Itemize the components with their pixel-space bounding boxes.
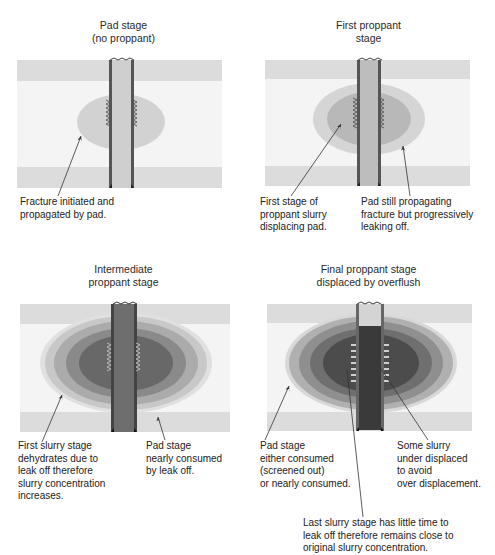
label-fracture-initiated: Fracture initiated and propagated by pad… bbox=[20, 196, 114, 221]
panel-final-stage: Final proppant stage displaced by overfl… bbox=[245, 250, 492, 555]
label-first-slurry-dehydrates: First slurry stage dehydrates due to lea… bbox=[18, 440, 105, 503]
label-last-slurry-stage: Last slurry stage has little time to lea… bbox=[303, 517, 453, 555]
final-stage-diagram bbox=[245, 250, 495, 555]
label-first-stage-slurry: First stage of proppant slurry displacin… bbox=[260, 196, 327, 234]
label-pad-either-consumed: Pad stage either consumed (screened out)… bbox=[260, 440, 351, 490]
wellbore bbox=[111, 60, 132, 188]
panel-first-proppant-stage: First proppant stage First stage of prop… bbox=[245, 0, 492, 250]
label-pad-nearly-consumed: Pad stage nearly consumed by leak off. bbox=[146, 440, 222, 478]
label-some-slurry-under-displaced: Some slurry under displaced to avoid ove… bbox=[397, 440, 481, 490]
panel-pad-stage: Pad stage (no proppant) Fracture initiat… bbox=[0, 0, 247, 250]
panel-intermediate-stage: Intermediate proppant stage First slurry… bbox=[0, 250, 247, 450]
label-pad-still-propagating: Pad still propagating fracture but progr… bbox=[361, 196, 473, 234]
intermediate-diagram bbox=[0, 250, 247, 450]
slurry-in-wellbore bbox=[358, 326, 382, 430]
